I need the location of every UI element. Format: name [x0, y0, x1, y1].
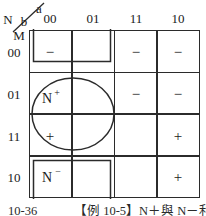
column-header-2: 11 [130, 11, 143, 26]
group-label-n-minus-base: N [42, 170, 52, 185]
cell-r2-c3: + [174, 128, 182, 144]
row-header-1: 01 [8, 87, 21, 102]
row-header-3: 10 [8, 170, 21, 185]
corner-label-N: N [3, 12, 13, 27]
caption-example-text: 【例 10-5】N＋與 N－利出 [74, 204, 206, 216]
group-label-n-plus-sup: + [54, 87, 60, 98]
caption-figure-number: 10-36 [8, 204, 37, 216]
cell-r0-c0: − [46, 44, 54, 60]
cell-r0-c3: − [174, 44, 182, 60]
kmap-canvas: a b N M 00 01 11 10 00 01 11 10 − − − − … [0, 0, 206, 216]
karnaugh-map-figure: a b N M 00 01 11 10 00 01 11 10 − − − − … [0, 0, 206, 216]
group-label-n-minus: N − [42, 166, 61, 185]
cell-r3-c3: + [174, 169, 182, 185]
row-header-2: 11 [8, 129, 21, 144]
corner-label-M: M [13, 28, 25, 43]
cell-r0-c2: − [132, 44, 140, 60]
corner-label-a: a [36, 1, 42, 16]
cell-r1-c3: − [174, 86, 182, 102]
row-header-0: 00 [8, 45, 21, 60]
group-label-n-plus-base: N [42, 91, 52, 106]
group-label-n-minus-sup: − [55, 166, 61, 177]
corner-label-b: b [21, 14, 28, 29]
cell-r1-c2: − [132, 86, 140, 102]
column-header-1: 01 [87, 11, 100, 26]
group-label-n-plus: N + [42, 87, 60, 106]
cell-r2-c0: + [46, 128, 54, 144]
column-header-3: 10 [172, 11, 185, 26]
column-header-0: 00 [44, 11, 57, 26]
